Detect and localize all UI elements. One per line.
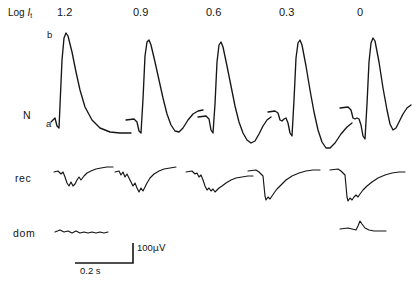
trace-dom-2 <box>340 221 386 231</box>
trace-rec-4 <box>248 170 320 200</box>
scale-bar <box>75 243 133 263</box>
scale-voltage-unit: μV <box>153 242 166 253</box>
trace-n-3 <box>198 42 271 143</box>
scale-time-label: 0.2 s <box>80 266 101 276</box>
trace-rec-5 <box>330 169 405 201</box>
trace-rec-1 <box>54 167 113 186</box>
trace-n-1 <box>51 33 131 133</box>
erg-figure: Log It 1.2 0.9 0.6 0.3 0 N rec dom b a 1… <box>0 0 417 288</box>
trace-rec-2 <box>115 167 176 192</box>
figure-caption <box>40 281 370 288</box>
trace-n-4 <box>268 40 352 148</box>
trace-n-2 <box>126 40 203 133</box>
trace-rec-3 <box>186 171 253 192</box>
scale-voltage-value: 100 <box>137 242 153 253</box>
trace-canvas <box>0 0 417 288</box>
scale-voltage-label: 100μV <box>137 243 165 253</box>
trace-dom-1 <box>55 230 108 233</box>
